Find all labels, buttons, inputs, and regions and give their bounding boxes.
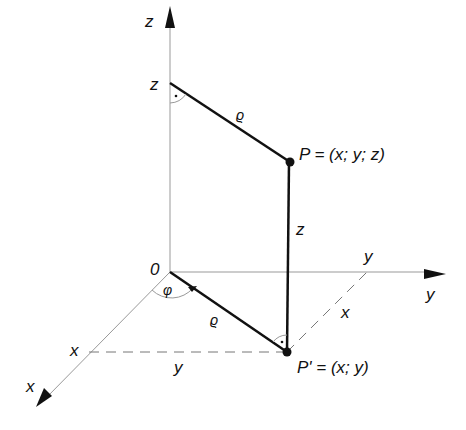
z-segment-label: z (295, 220, 305, 239)
dashed-x-segment (287, 272, 367, 352)
right-angle-arc-top (170, 94, 186, 103)
rho-segment-bottom (170, 272, 287, 352)
z-axis-label: z (144, 12, 154, 31)
x-axis-label: x (25, 377, 35, 396)
point-P-prime-label: P' = (x; y) (297, 358, 369, 377)
right-angle-arc-bottom (273, 335, 287, 342)
z-segment (287, 162, 289, 352)
cylindrical-coordinates-diagram: z z ϱ P = (x; y; z) z 0 y y φ ϱ x x y P'… (0, 0, 466, 430)
rho-bottom-label: ϱ (210, 312, 218, 328)
x-on-axis-label: x (69, 341, 79, 360)
point-P-prime (283, 348, 292, 357)
x-axis (46, 272, 170, 398)
y-on-axis-label: y (363, 247, 374, 266)
y-segment-label: y (173, 358, 184, 377)
point-P-label: P = (x; y; z) (299, 145, 385, 164)
x-axis-arrow-icon (36, 388, 52, 407)
rho-top-label: ϱ (236, 107, 244, 123)
phi-arc (152, 288, 193, 298)
phi-label: φ (163, 282, 172, 298)
z-axis-arrow-icon (165, 6, 175, 28)
right-angle-dot-bottom (281, 341, 284, 344)
point-P (286, 158, 295, 167)
rho-segment-top (170, 83, 290, 162)
z-on-axis-label: z (149, 75, 159, 94)
origin-label: 0 (150, 260, 160, 279)
x-segment-label: x (340, 303, 350, 322)
y-axis-label: y (425, 285, 436, 304)
y-axis-arrow-icon (424, 269, 446, 279)
right-angle-dot-top (175, 95, 178, 98)
